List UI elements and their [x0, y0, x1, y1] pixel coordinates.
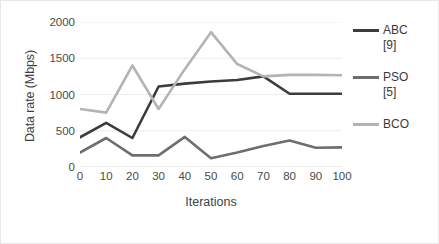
x-tick-label: 80	[283, 170, 296, 182]
x-tick-label: 90	[309, 170, 322, 182]
y-tick-label: 500	[31, 125, 75, 137]
chart-legend: ABC[9]PSO[5]BCO	[353, 23, 437, 149]
y-tick-label: 1500	[31, 52, 75, 64]
legend-label: ABC[9]	[383, 23, 408, 53]
chart-figure: Data rate (Mbps) 0500100015002000 010203…	[0, 0, 439, 244]
series-line	[80, 32, 342, 112]
legend-label: PSO[5]	[383, 70, 408, 100]
x-tick-label: 30	[152, 170, 165, 182]
x-tick-label: 100	[332, 170, 351, 182]
series-line	[80, 137, 342, 158]
x-tick-label: 40	[178, 170, 191, 182]
y-tick-label: 2000	[31, 16, 75, 28]
y-axis-tick-labels: 0500100015002000	[29, 1, 75, 244]
legend-item[interactable]: ABC[9]	[353, 23, 437, 53]
x-tick-label: 0	[77, 170, 83, 182]
x-tick-label: 10	[100, 170, 113, 182]
legend-item[interactable]: PSO[5]	[353, 70, 437, 100]
legend-color-swatch	[353, 76, 379, 79]
legend-item[interactable]: BCO	[353, 117, 437, 132]
x-tick-label: 70	[257, 170, 270, 182]
x-tick-label: 50	[205, 170, 218, 182]
x-axis-title: Iterations	[81, 195, 341, 209]
y-tick-label: 1000	[31, 89, 75, 101]
x-axis-tick-labels: 0102030405060708090100	[80, 170, 342, 190]
plot-area	[80, 22, 342, 167]
series-line	[80, 76, 342, 138]
chart-canvas	[80, 22, 342, 167]
x-tick-label: 60	[231, 170, 244, 182]
x-tick-label: 20	[126, 170, 139, 182]
legend-color-swatch	[353, 29, 379, 32]
legend-color-swatch	[353, 123, 379, 126]
legend-label: BCO	[383, 117, 409, 132]
y-tick-label: 0	[31, 161, 75, 173]
